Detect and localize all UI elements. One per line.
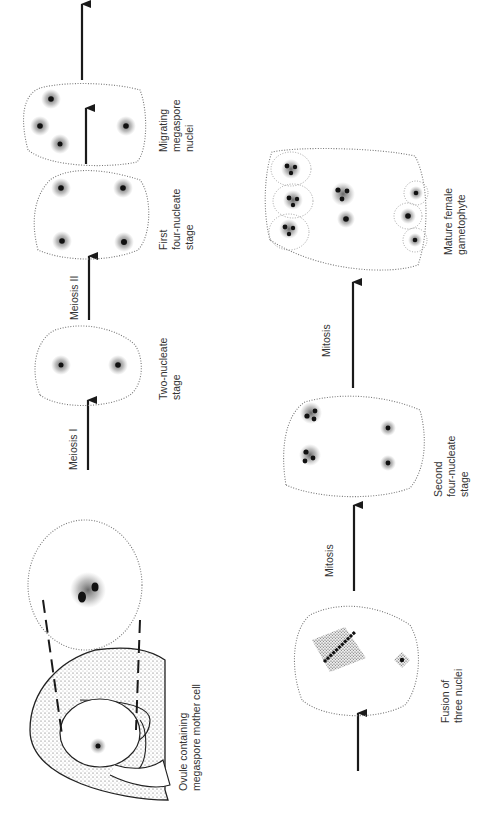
- egg-apparatus: [394, 181, 428, 252]
- ovule-label: Ovule containing megaspore mother cell: [177, 684, 202, 791]
- two-nucleate-stage-label: Two-nucleate stage: [157, 335, 182, 400]
- central-cell-nuclei: [331, 182, 355, 228]
- mature-female-gametophyte-label: Mature female gametophyte: [442, 185, 467, 255]
- migrating-megaspore-nuclei-label: Migrating megaspore nuclei: [157, 97, 195, 152]
- antipodal-cells: [269, 152, 313, 250]
- first-four-nucleate-stage-cell: [34, 171, 149, 259]
- megagametophyte-development-diagram: Meiosis I Two-nucleate stage Meiosis II …: [0, 0, 482, 839]
- fusion-of-three-nuclei-cell: [294, 606, 418, 715]
- two-nucleate-stage-cell: [35, 326, 141, 406]
- mitosis-2-label: Mitosis: [320, 324, 332, 357]
- second-four-nucleate-stage-cell: [284, 396, 425, 496]
- mature-female-gametophyte-cell: [265, 149, 428, 271]
- ovule-illustration: [30, 648, 170, 800]
- magnified-megaspore-mother-cell: [28, 520, 142, 650]
- meiosis-2-label: Meiosis II: [68, 276, 80, 320]
- fusion-of-three-nuclei-label: Fusion of three nuclei: [439, 669, 464, 723]
- meiosis-1-label: Meiosis I: [67, 429, 79, 470]
- fused-nuclei: [312, 627, 366, 672]
- mitosis-1-label: Mitosis: [323, 544, 335, 577]
- second-four-nucleate-stage-label: Second four-nucleate stage: [432, 433, 470, 497]
- first-four-nucleate-stage-label: First four-nucleate stage: [157, 186, 195, 250]
- migrating-megaspore-nuclei-cell: [24, 84, 146, 166]
